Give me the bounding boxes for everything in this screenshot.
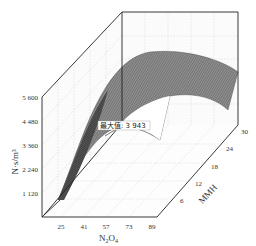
z-axis-ticks: 5 600 4 480 3 360 2 240 1 120	[22, 94, 38, 198]
svg-text:18: 18	[211, 163, 219, 171]
svg-text:12: 12	[195, 180, 203, 188]
svg-text:25: 25	[58, 223, 66, 231]
svg-text:57: 57	[103, 223, 111, 231]
svg-text:73: 73	[126, 223, 134, 231]
svg-text:5 600: 5 600	[22, 94, 38, 102]
svg-text:24: 24	[226, 145, 234, 153]
svg-text:1 120: 1 120	[22, 190, 38, 198]
x-axis-label: N2O4	[99, 233, 118, 244]
svg-text:3 360: 3 360	[22, 142, 38, 150]
svg-text:41: 41	[81, 223, 89, 231]
x-axis-ticks: 25 41 57 73 89	[58, 223, 157, 231]
max-annotation: 最大值: 3 943	[98, 121, 150, 130]
svg-text:4 480: 4 480	[22, 118, 38, 126]
surface-chart: 最大值: 3 943 5 600 4 480 3 360 2 240 1 120…	[0, 0, 256, 246]
svg-text:89: 89	[149, 223, 157, 231]
max-value-label: 最大值: 3 943	[100, 121, 146, 130]
svg-text:6: 6	[180, 197, 184, 205]
svg-text:N2O4: N2O4	[99, 233, 118, 244]
svg-text:30: 30	[241, 128, 249, 136]
svg-text:2 240: 2 240	[22, 166, 38, 174]
z-axis-label: N·s/m³	[10, 149, 20, 175]
